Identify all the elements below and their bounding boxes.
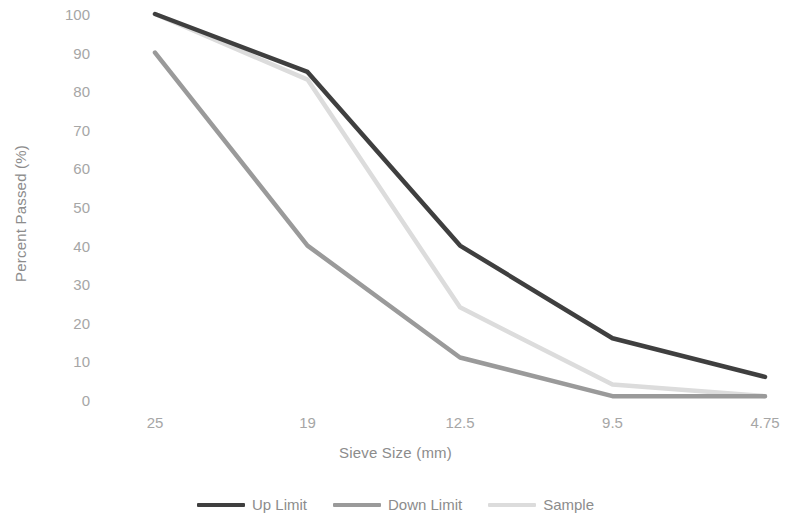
gradation-line-chart: Percent Passed (%) 100908070605040302010… <box>0 0 791 528</box>
legend-line-swatch <box>488 503 536 507</box>
series-line <box>155 14 765 396</box>
legend-item[interactable]: Up Limit <box>197 496 307 513</box>
chart-legend: Up LimitDown LimitSample <box>0 496 791 513</box>
legend-label: Down Limit <box>388 496 462 513</box>
legend-line-swatch <box>333 503 381 507</box>
x-axis-title: Sieve Size (mm) <box>0 444 791 461</box>
legend-label: Up Limit <box>252 496 307 513</box>
legend-label: Sample <box>543 496 594 513</box>
legend-item[interactable]: Sample <box>488 496 594 513</box>
legend-line-swatch <box>197 503 245 507</box>
series-line <box>155 53 765 397</box>
legend-item[interactable]: Down Limit <box>333 496 462 513</box>
series-line <box>155 14 765 377</box>
